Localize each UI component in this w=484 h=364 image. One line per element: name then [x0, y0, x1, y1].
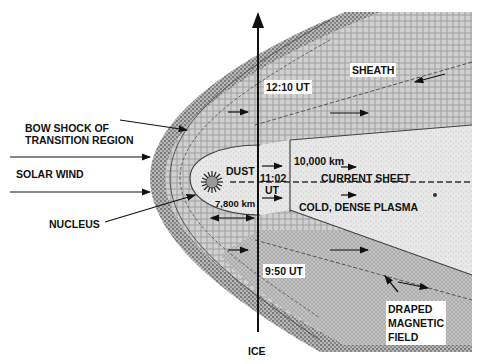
bow-shock-label: BOW SHOCK OF TRANSITION REGION — [25, 122, 134, 146]
nucleus-icon — [201, 171, 223, 193]
dust-label: DUST — [226, 165, 255, 177]
nucleus-label: NUCLEUS — [49, 218, 100, 230]
sheath-label: SHEATH — [350, 63, 396, 77]
ice-label: ICE — [248, 345, 266, 357]
draped-field-label: DRAPED MAGNETIC FIELD — [386, 301, 446, 345]
dist-7800-label: 7,800 km — [215, 198, 255, 210]
dist-10000-label: 10,000 km — [294, 155, 344, 167]
time-1102-label: 11:02 UT — [260, 172, 284, 196]
time-950-label: 9:50 UT — [263, 264, 305, 278]
current-sheet-label: CURRENT SHEET — [321, 172, 410, 184]
cold-plasma-label: COLD, DENSE PLASMA — [299, 201, 418, 213]
time-1210-label: 12:10 UT — [264, 80, 312, 94]
comet-plasma-diagram: BOW SHOCK OF TRANSITION REGION SOLAR WIN… — [0, 0, 484, 364]
solar-wind-label: SOLAR WIND — [16, 168, 84, 180]
